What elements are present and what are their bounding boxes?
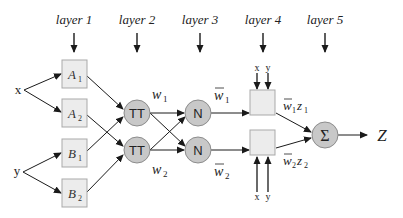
svg-text:2: 2	[78, 194, 82, 203]
weight-w2-label: w 2	[152, 162, 168, 179]
svg-text:w: w	[214, 164, 224, 179]
layer4-output-2-label: w 2 z 2	[283, 153, 308, 170]
node-consequent-1	[250, 90, 275, 115]
layer4-output-1-label: w 1 z 1	[283, 98, 308, 115]
layer2-nodes: TT TT w 1 w 2	[124, 87, 168, 179]
node-b1: B 1	[62, 139, 87, 167]
svg-text:2: 2	[225, 171, 230, 181]
svg-text:2: 2	[304, 161, 308, 170]
input-y-label: y	[14, 163, 21, 178]
svg-text:2: 2	[292, 161, 296, 170]
node-summation: Σ	[312, 122, 338, 148]
output-z-label: Z	[377, 126, 387, 145]
svg-text:1: 1	[163, 94, 168, 104]
layer-5-label: layer 5	[307, 12, 344, 27]
svg-text:N: N	[193, 143, 202, 158]
svg-text:2: 2	[163, 169, 168, 179]
input-connections	[23, 74, 61, 193]
layer4-node2-input-y: y	[266, 191, 271, 202]
node-normalize-1: N	[185, 100, 211, 126]
svg-text:1: 1	[292, 106, 296, 115]
layer4-node2-input-x: x	[255, 191, 260, 202]
node-b2: B 2	[62, 179, 87, 207]
weight-w1-label: w 1	[152, 87, 168, 104]
layer4-node1-input-y: y	[266, 62, 271, 73]
svg-text:2: 2	[78, 114, 82, 123]
svg-text:w: w	[152, 87, 162, 102]
svg-text:1: 1	[304, 106, 308, 115]
svg-text:A: A	[67, 67, 76, 82]
svg-text:1: 1	[78, 75, 82, 84]
svg-text:TT: TT	[129, 143, 145, 158]
normalized-weight-w2-label: w 2	[214, 164, 230, 181]
layer3-to-layer4-connections	[211, 113, 249, 150]
input-x-label: x	[15, 82, 22, 97]
layer-labels: layer 1 layer 2 layer 3 layer 4 layer 5	[56, 12, 344, 27]
svg-text:1: 1	[78, 154, 82, 163]
node-normalize-2: N	[185, 137, 211, 163]
svg-text:B: B	[68, 146, 76, 161]
svg-text:B: B	[68, 186, 76, 201]
layer4-node1-input-x: x	[255, 62, 260, 73]
svg-text:w: w	[283, 98, 292, 113]
layer-2-label: layer 2	[119, 12, 156, 27]
layer-1-label: layer 1	[56, 12, 92, 27]
svg-text:z: z	[296, 153, 302, 168]
svg-text:z: z	[296, 98, 302, 113]
layer4-nodes: w 1 z 1 w 2 z 2	[250, 90, 308, 170]
svg-text:N: N	[193, 106, 202, 121]
layer3-nodes: N N w 1 w 2	[185, 88, 230, 181]
svg-text:TT: TT	[129, 106, 145, 121]
layer4-to-layer5-connections	[276, 113, 311, 148]
node-a2: A 2	[62, 99, 87, 127]
svg-text:A: A	[67, 106, 76, 121]
anfis-diagram: layer 1 layer 2 layer 3 layer 4 layer 5 …	[0, 0, 403, 218]
node-product-2: TT	[124, 137, 150, 163]
layer-4-label: layer 4	[245, 12, 282, 27]
normalized-weight-w1-label: w 1	[214, 88, 230, 105]
layer-arrows	[74, 33, 325, 52]
svg-text:w: w	[152, 162, 162, 177]
layer2-to-layer3-connections	[150, 113, 185, 150]
svg-text:w: w	[283, 153, 292, 168]
svg-text:w: w	[214, 88, 224, 103]
layer1-nodes: A 1 A 2 B 1 B 2	[62, 60, 87, 207]
node-a1: A 1	[62, 60, 87, 88]
sigma-icon: Σ	[320, 127, 329, 144]
svg-text:1: 1	[225, 95, 230, 105]
node-consequent-2	[250, 130, 275, 155]
layer-3-label: layer 3	[182, 12, 219, 27]
layer1-to-layer2-connections	[87, 76, 123, 192]
node-product-1: TT	[124, 100, 150, 126]
